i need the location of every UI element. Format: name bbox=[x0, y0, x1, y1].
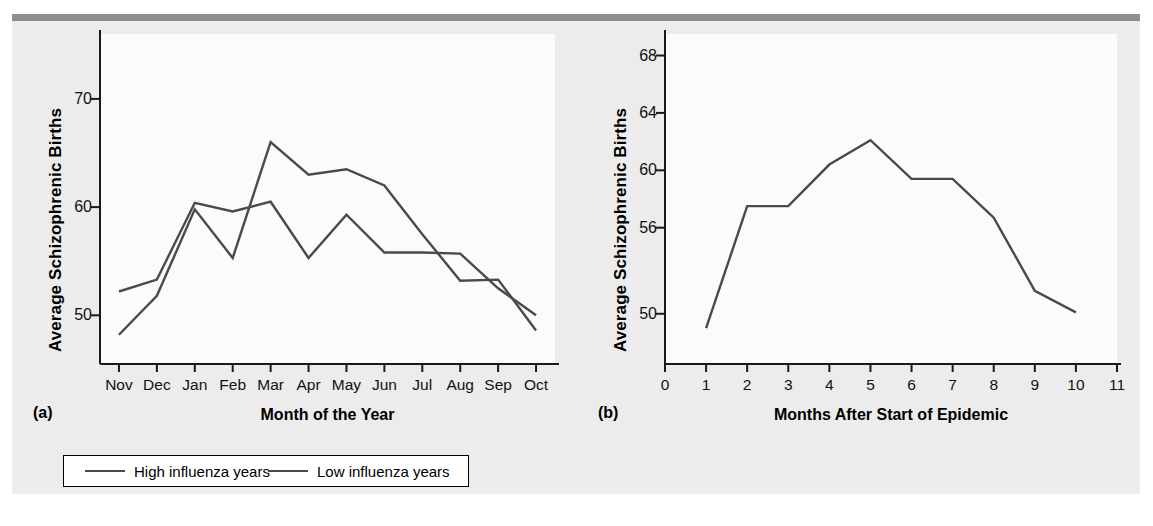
panel-letter-b: (b) bbox=[598, 404, 618, 422]
x-tick-label: Apr bbox=[296, 376, 320, 394]
x-tick-label: 7 bbox=[948, 376, 957, 394]
x-tick-label: 4 bbox=[825, 376, 834, 394]
x-tick-label: 5 bbox=[866, 376, 875, 394]
x-tick-label: Aug bbox=[446, 376, 474, 394]
y-tick-label: 64 bbox=[621, 104, 657, 122]
x-tick-label: Dec bbox=[143, 376, 171, 394]
x-tick-label: 10 bbox=[1067, 376, 1084, 394]
y-tick-label: 50 bbox=[56, 306, 92, 324]
x-tick-label: 8 bbox=[989, 376, 998, 394]
panel-letter-a: (a) bbox=[33, 404, 53, 422]
y-tick-label: 50 bbox=[621, 305, 657, 323]
legend-line-swatch-icon bbox=[85, 470, 125, 472]
x-tick-label: Sep bbox=[484, 376, 512, 394]
plot-area-background-b bbox=[665, 34, 1117, 364]
x-tick-label: May bbox=[332, 376, 361, 394]
x-tick-label: 0 bbox=[661, 376, 670, 394]
x-axis-title-a: Month of the Year bbox=[100, 406, 555, 424]
y-tick-label: 60 bbox=[56, 198, 92, 216]
y-tick-label: 60 bbox=[621, 161, 657, 179]
x-tick-label: 3 bbox=[784, 376, 793, 394]
x-tick-label: Jun bbox=[372, 376, 397, 394]
x-tick-label: 11 bbox=[1109, 376, 1125, 394]
x-tick-label: 2 bbox=[743, 376, 752, 394]
legend-label-high-influenza: High influenza years bbox=[134, 463, 270, 480]
x-tick-label: Mar bbox=[257, 376, 284, 394]
x-tick-label: Jul bbox=[412, 376, 432, 394]
y-tick-label: 68 bbox=[621, 47, 657, 65]
top-horizontal-rule bbox=[12, 14, 1140, 21]
legend-entry-low-influenza: Low influenza years bbox=[268, 456, 450, 486]
x-tick-label: 9 bbox=[1031, 376, 1040, 394]
x-tick-label: 1 bbox=[702, 376, 711, 394]
x-tick-label: Oct bbox=[524, 376, 548, 394]
legend-line-swatch-icon bbox=[268, 470, 308, 472]
x-tick-label: Feb bbox=[219, 376, 246, 394]
legend-label-low-influenza: Low influenza years bbox=[317, 463, 450, 480]
x-tick-label: 6 bbox=[907, 376, 916, 394]
figure-root: Average Schizophrenic Births Month of th… bbox=[0, 0, 1153, 526]
y-tick-label: 70 bbox=[56, 90, 92, 108]
x-tick-label: Jan bbox=[182, 376, 207, 394]
x-axis-title-b: Months After Start of Epidemic bbox=[665, 406, 1117, 424]
y-tick-label: 56 bbox=[621, 219, 657, 237]
plot-area-background-a bbox=[100, 34, 555, 364]
x-tick-label: Nov bbox=[105, 376, 133, 394]
legend-entry-high-influenza: High influenza years bbox=[85, 456, 270, 486]
legend: High influenza years Low influenza years bbox=[63, 455, 469, 487]
